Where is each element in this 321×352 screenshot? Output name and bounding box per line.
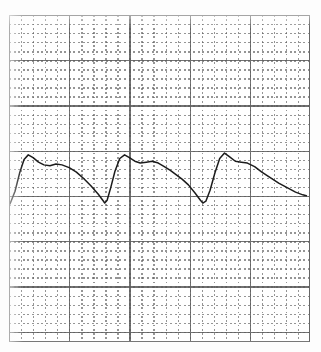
chart-plot-area — [9, 15, 310, 342]
scanned-chart-page — [0, 0, 321, 352]
data-trace-svg — [9, 15, 310, 342]
trace-polyline — [10, 153, 306, 204]
